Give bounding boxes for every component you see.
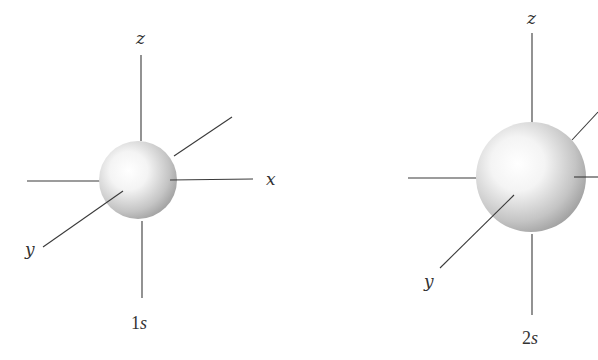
orbital-caption-1s: 1s [131,313,147,333]
z-axis-label: z [526,8,537,28]
y-axis-front [43,191,123,247]
y-axis-label: y [423,271,434,291]
orbital-caption-2s: 2s [522,328,538,348]
z-axis-label: z [135,28,146,48]
y-axis-front [440,195,514,268]
sphere-1s [99,141,177,219]
orbital-2s: z y 2s [408,8,598,348]
y-axis-back [572,112,598,140]
x-axis-right [170,179,253,180]
x-axis-label: x [266,169,276,189]
orbital-diagram: z x y 1s z y 2s [0,0,598,360]
y-axis-back [174,117,232,156]
orbital-1s: z x y 1s [24,28,276,333]
y-axis-label: y [24,239,35,259]
